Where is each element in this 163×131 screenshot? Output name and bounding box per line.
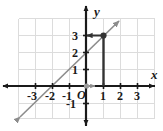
x-tick-label-2: 2 [117, 90, 123, 102]
axes [3, 6, 155, 126]
origin-label: O [77, 89, 86, 101]
x-tick-label-neg3: -3 [27, 90, 37, 102]
coordinate-plane-figure: x y -3 -2 -1 1 2 3 O 3 2 1 -1 [0, 0, 163, 131]
y-tick-label-2: 2 [72, 47, 78, 59]
x-tick-label-3: 3 [134, 90, 140, 102]
x-tick-label-neg2: -2 [45, 90, 55, 102]
y-tick-label-1: 1 [72, 64, 78, 76]
y-tick-label-3: 3 [72, 30, 78, 42]
x-axis-label: x [151, 68, 158, 81]
plotted-point [100, 32, 106, 38]
graph-canvas [0, 0, 163, 131]
y-tick-label-neg1: -1 [66, 98, 76, 110]
x-tick-label-1: 1 [100, 90, 106, 102]
y-axis-label: y [94, 5, 100, 18]
